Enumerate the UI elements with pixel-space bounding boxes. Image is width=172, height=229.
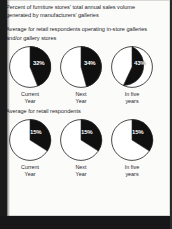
pie-caption-line2: Year <box>75 171 86 178</box>
page-title: Percent of furniture stores' total annua… <box>6 3 158 19</box>
pie-caption-line1: Next <box>75 164 86 171</box>
pie-caption: Current Year <box>21 91 39 105</box>
pie-caption-line2: Year <box>21 98 39 105</box>
pie-chart-bottom-current-year: 15% Current Year <box>6 118 54 178</box>
pie-graphic: 34% <box>59 45 103 89</box>
pie-caption-line2: Year <box>75 98 86 105</box>
pie-chart-bottom-in-five-years: 15% In five years <box>108 118 156 178</box>
pie-chart-bottom-next-year: 15% Next Year <box>57 118 105 178</box>
pie-caption-line2: Year <box>21 171 39 178</box>
pie-caption-line1: Current <box>21 91 39 98</box>
pie-chart-top-current-year: 32% Current Year <box>6 45 54 105</box>
pie-chart-top-in-five-years: 43% In five years <box>108 45 156 105</box>
pie-caption: In five years <box>125 164 139 178</box>
pie-caption-line2: years <box>125 171 139 178</box>
pie-graphic: 15% <box>59 118 103 162</box>
pie-graphic: 15% <box>110 118 154 162</box>
page-right-edge <box>170 0 172 229</box>
pie-caption-line1: Next <box>75 91 86 98</box>
pie-caption: Next Year <box>75 91 86 105</box>
section-subtitle-top: Average for retail respondents operating… <box>6 25 158 41</box>
pie-row-top: 32% Current Year 34% Next Year <box>6 45 156 105</box>
pie-caption-line1: Current <box>21 164 39 171</box>
pie-caption: In five years <box>125 91 139 105</box>
pie-svg <box>59 45 103 89</box>
pie-graphic: 32% <box>8 45 52 89</box>
page-content: Percent of furniture stores' total annua… <box>6 0 158 178</box>
pie-caption-line1: In five <box>125 164 139 171</box>
scanned-page: Percent of furniture stores' total annua… <box>0 0 172 229</box>
page-bottom-band <box>0 216 172 229</box>
pie-chart-top-next-year: 34% Next Year <box>57 45 105 105</box>
pie-svg <box>59 118 103 162</box>
pie-svg <box>110 45 154 89</box>
pie-graphic: 43% <box>110 45 154 89</box>
pie-svg <box>110 118 154 162</box>
pie-caption-line1: In five <box>125 91 139 98</box>
pie-row-bottom: 15% Current Year 15% Next Year <box>6 118 156 178</box>
pie-svg <box>8 45 52 89</box>
pie-caption: Next Year <box>75 164 86 178</box>
pie-svg <box>8 118 52 162</box>
pie-caption: Current Year <box>21 164 39 178</box>
section-subtitle-middle: Average for retail respondents <box>6 107 158 115</box>
pie-caption-line2: years <box>125 98 139 105</box>
pie-graphic: 15% <box>8 118 52 162</box>
